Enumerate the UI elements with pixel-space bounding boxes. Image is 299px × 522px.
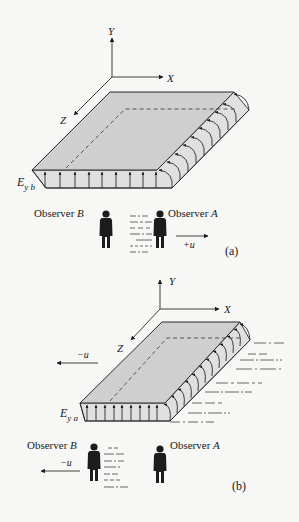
motion-lines-a bbox=[130, 216, 152, 252]
caption-b: (b) bbox=[232, 479, 246, 493]
observer-a-label-b: Observer A bbox=[170, 439, 220, 451]
observer-a-label-a: Observer A bbox=[168, 207, 218, 219]
caption-a: (a) bbox=[225, 244, 238, 258]
plate-velocity-label-b: −u bbox=[77, 349, 89, 360]
velocity-label-a: +u bbox=[183, 239, 195, 250]
x-axis-label: X bbox=[166, 72, 175, 84]
observer-b-figure-b bbox=[88, 443, 101, 481]
panel-b: Y X Z −u bbox=[27, 275, 284, 493]
observer-a-figure-b bbox=[154, 445, 167, 483]
observer-b-label-b: Observer B bbox=[27, 439, 77, 451]
observer-b-label-a: Observer B bbox=[34, 207, 84, 219]
y-axis-label: Y bbox=[108, 25, 116, 37]
panel-a: Y X Z bbox=[16, 25, 249, 258]
capacitor-field-diagram: Y X Z bbox=[0, 0, 299, 522]
x-axis-label: X bbox=[223, 303, 232, 315]
field-label-a: Ey b bbox=[16, 175, 36, 192]
z-axis-label: Z bbox=[117, 342, 124, 354]
z-axis-label: Z bbox=[60, 114, 67, 126]
observer-b-figure-a bbox=[100, 210, 113, 248]
field-label-b: Ey a bbox=[59, 406, 79, 423]
motion-lines-observer-b bbox=[104, 448, 128, 487]
y-axis-label: Y bbox=[169, 275, 177, 287]
observer-a-figure-a bbox=[154, 210, 167, 248]
observer-velocity-label-b: −u bbox=[60, 457, 72, 468]
